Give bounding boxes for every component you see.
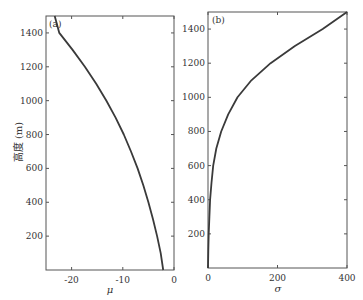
plot-frame [208,12,347,268]
y-tick-label: 400 [188,195,205,205]
x-tick-label: 0 [171,275,177,285]
x-axis-label-sigma: σ [275,283,283,294]
x-tick-label: 0 [205,273,211,283]
figure: -20-100200400600800100012001400 02004002… [0,0,363,300]
y-tick-label: 200 [188,229,205,239]
panel-a: -20-100200400600800100012001400 [20,16,177,285]
x-tick-label: 400 [338,273,355,283]
y-axis-label: 高度 (m) [12,122,24,163]
y-tick-label: 1000 [20,96,43,106]
data-line [55,16,164,270]
x-axis-label-mu: μ [107,284,114,295]
y-tick-label: 400 [26,197,43,207]
y-tick-label: 1200 [20,62,43,72]
x-tick-label: -10 [116,275,131,285]
panel-label-b: (b) [212,15,225,25]
x-tick-label: 200 [269,273,286,283]
y-tick-label: 1000 [182,92,205,102]
y-tick-label: 1400 [182,24,205,34]
y-tick-label: 1200 [182,58,205,68]
x-tick-label: -20 [64,275,79,285]
y-tick-label: 600 [26,163,43,173]
y-tick-label: 800 [26,130,43,140]
y-tick-label: 1400 [20,28,43,38]
data-line [208,12,347,268]
panel-label-a: (a) [49,19,61,29]
plot-frame [46,16,174,270]
y-tick-label: 600 [188,161,205,171]
y-tick-label: 200 [26,231,43,241]
panel-b: 0200400200400600800100012001400 [182,12,356,283]
y-tick-label: 800 [188,126,205,136]
